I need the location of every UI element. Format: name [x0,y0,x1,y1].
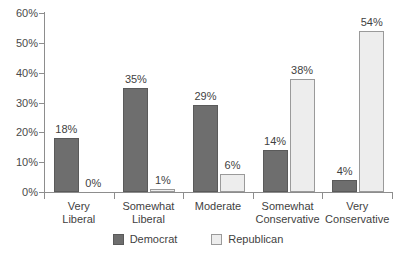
y-axis-tick-label: 20% [2,127,38,138]
y-axis-tick-label: 10% [2,157,38,168]
bar-democrat [193,105,218,192]
bar-value-label: 18% [46,124,86,135]
legend-swatch-icon [211,234,222,245]
bar-democrat [332,180,357,192]
category-label-line: Very [308,200,396,213]
chart-legend: DemocratRepublican [0,234,396,245]
bar-value-label: 0% [73,178,113,189]
bar-value-label: 54% [352,17,392,28]
legend-label: Democrat [130,234,178,245]
category-label-line: Liberal [100,213,198,226]
bar-democrat [263,150,288,192]
x-axis-tick [322,193,323,199]
bar-value-label: 35% [116,74,156,85]
legend-item-rep[interactable]: Republican [211,234,283,245]
x-axis-tick [253,193,254,199]
bar-republican [220,174,245,192]
bar-value-label: 38% [282,65,322,76]
bar-chart: 0%10%20%30%40%50%60% 18%0%35%1%29%6%14%3… [0,0,396,258]
x-axis-category-label: VeryConservative [308,200,396,226]
x-axis-tick [114,193,115,199]
bar-republican [150,189,175,192]
legend-item-dem[interactable]: Democrat [113,234,178,245]
y-axis-tick-label: 30% [2,98,38,109]
y-axis-tick-label: 0% [2,187,38,198]
bar-value-label: 1% [143,175,183,186]
bar-republican [290,79,315,192]
y-axis-tick-label: 40% [2,68,38,79]
x-axis-tick [44,193,45,199]
x-axis-line [44,192,393,193]
plot-area: 18%0%35%1%29%6%14%38%4%54% [45,13,393,192]
bar-republican [359,31,384,192]
y-axis-tick-label: 50% [2,38,38,49]
bar-value-label: 6% [213,160,253,171]
legend-swatch-icon [113,234,124,245]
legend-label: Republican [228,234,283,245]
category-label-line: Conservative [308,213,396,226]
bar-value-label: 29% [186,91,226,102]
y-axis-tick-label: 60% [2,8,38,19]
x-axis-tick [392,193,393,199]
x-axis-tick [183,193,184,199]
